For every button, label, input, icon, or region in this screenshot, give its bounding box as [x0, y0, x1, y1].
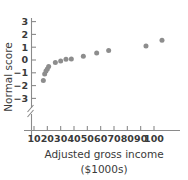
chart-canvas: −3−2−10123 102030405060708090100 Normal … [0, 0, 188, 180]
y-tick-label-3: 3 [21, 16, 28, 27]
normal-probability-plot-figure: −3−2−10123 102030405060708090100 Normal … [0, 0, 188, 180]
x-axis-tick-labels: 102030405060708090100 [27, 133, 164, 144]
x-tick-label-40: 40 [67, 133, 81, 144]
data-point [53, 60, 58, 65]
x-tick-label-60: 60 [94, 133, 108, 144]
data-point [94, 50, 99, 55]
data-point [159, 38, 164, 43]
y-axis-ticks [32, 22, 37, 99]
x-tick-label-100: 100 [144, 133, 164, 144]
y-axis-tick-labels: −3−2−10123 [13, 16, 28, 104]
data-point [46, 64, 51, 69]
x-tick-label-70: 70 [107, 133, 121, 144]
x-tick-label-20: 20 [41, 133, 55, 144]
x-tick-label-30: 30 [54, 133, 68, 144]
data-point [41, 78, 46, 83]
x-tick-label-80: 80 [121, 133, 135, 144]
y-axis-title: Normal score [2, 42, 14, 112]
data-points [41, 38, 165, 83]
y-tick-label-0: 0 [21, 54, 28, 65]
x-tick-label-10: 10 [27, 133, 41, 144]
y-tick-label-1: 1 [21, 42, 28, 53]
x-axis-ticks [34, 126, 154, 131]
x-tick-label-50: 50 [81, 133, 95, 144]
x-axis-units: ($1000s) [80, 163, 127, 175]
data-point [81, 54, 86, 59]
y-axis-break-icon [28, 105, 34, 117]
y-tick-label--2: −2 [13, 80, 28, 91]
data-point [69, 56, 74, 61]
data-point [143, 43, 148, 48]
x-axis-title: Adjusted gross income [44, 148, 163, 160]
y-tick-label--3: −3 [13, 93, 28, 104]
y-tick-label--1: −1 [13, 67, 28, 78]
data-point [58, 59, 63, 64]
y-tick-label-2: 2 [21, 29, 28, 40]
data-point [106, 48, 111, 53]
data-point [63, 57, 68, 62]
cropped-caption-remnant [0, 0, 188, 4]
